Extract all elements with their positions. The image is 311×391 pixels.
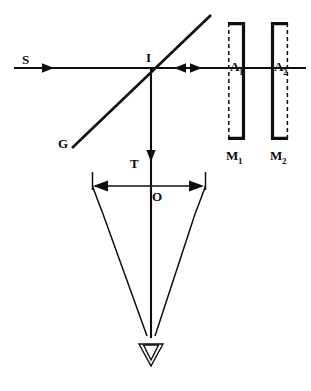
convergence-cone-group (93, 172, 206, 336)
label-mirror-M1: M 1 (226, 148, 243, 166)
cone-left-side (93, 186, 148, 336)
label-transmitted-T: T (130, 156, 139, 171)
cone-right-side (155, 186, 206, 336)
arrow-down-icon (146, 150, 155, 162)
mirror-M1-group (228, 23, 244, 139)
label-mirror-M1-sub: 1 (238, 156, 243, 166)
arrow-right-icon (42, 63, 54, 73)
label-splitter-G: G (58, 136, 68, 151)
label-aperture-A2: A 2 (274, 59, 288, 77)
arrow-right-icon-2 (190, 63, 202, 73)
eye-triangle-icon (139, 344, 163, 366)
beam-splitter-icon (72, 15, 211, 148)
optics-figure: S G I T O A 1 A 2 M 1 M 2 (0, 0, 311, 391)
label-mirror-M1-base: M (226, 148, 238, 163)
label-mirror-M2: M 2 (270, 148, 287, 166)
mirror-M2-reflective-face (273, 24, 289, 139)
label-intersection-I: I (146, 50, 151, 65)
diagram-canvas: S G I T O A 1 A 2 M 1 M 2 (0, 0, 311, 391)
label-mirror-M2-base: M (270, 148, 282, 163)
width-arrow-left-head (93, 180, 108, 191)
label-observation-O: O (152, 189, 162, 204)
label-source-S: S (22, 52, 29, 67)
mirror-M2-group (273, 23, 289, 139)
mirror-M1-reflective-face (228, 24, 244, 139)
label-aperture-A1-sub: 1 (239, 67, 244, 77)
width-arrow-right-head (189, 180, 204, 191)
label-aperture-A2-sub: 2 (283, 67, 288, 77)
arrow-left-icon (174, 63, 186, 73)
label-mirror-M2-sub: 2 (282, 156, 287, 166)
eye-outer-triangle (139, 344, 163, 366)
double-arrow-horizontal-icon (93, 180, 204, 191)
